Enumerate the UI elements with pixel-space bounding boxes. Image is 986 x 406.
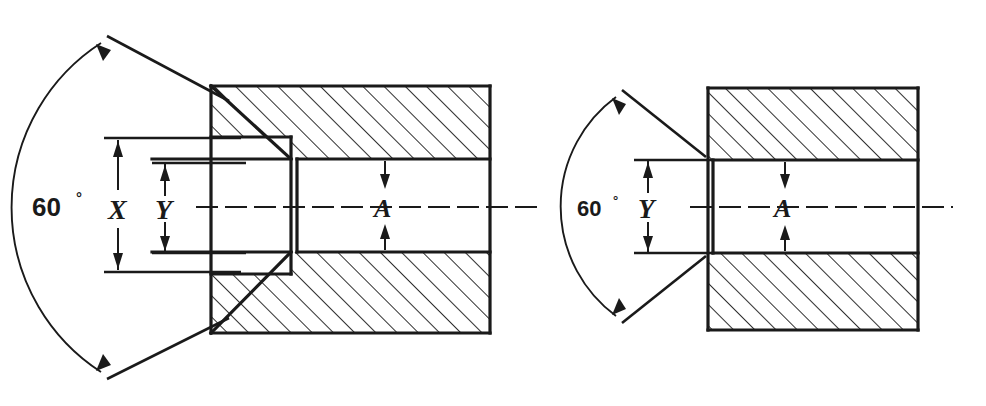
left-dimension-a: A: [372, 161, 391, 250]
left-y-arrow-top: [160, 165, 170, 181]
right-angle-dimension: 60 °: [561, 90, 706, 323]
left-counterbore-bore-edges: [152, 159, 291, 252]
right-dimension-a: A: [772, 162, 791, 251]
left-angle-arrow-top: [96, 44, 111, 61]
left-a-arrow-top: [380, 174, 390, 189]
technical-drawing-canvas: 60 ° X: [0, 0, 986, 406]
right-angle-arrow-top: [612, 98, 626, 115]
left-x-arrow-top: [113, 141, 123, 157]
left-angle-degree-symbol: °: [76, 189, 82, 206]
right-angle-value: 60: [577, 196, 601, 221]
left-dimension-y-label: Y: [155, 194, 175, 225]
left-y-arrow-bottom: [160, 236, 170, 251]
right-a-arrow-top: [780, 174, 790, 189]
left-angle-arrow-bottom: [96, 354, 111, 371]
left-x-arrow-bottom: [113, 253, 123, 269]
left-dimension-a-label: A: [372, 194, 391, 223]
left-a-arrow-bottom: [380, 224, 390, 239]
left-dimension-x-label: X: [107, 194, 128, 225]
right-view: 60 ° Y A: [561, 82, 953, 336]
right-dimension-y-label: Y: [638, 194, 657, 224]
right-dimension-a-label: A: [772, 194, 791, 223]
right-y-arrow-bottom: [643, 236, 653, 251]
right-section-hatch-lower: [702, 247, 924, 336]
right-angle-degree-symbol: °: [613, 193, 618, 208]
left-angle-value: 60: [32, 192, 61, 222]
right-a-arrow-bottom: [780, 225, 790, 240]
right-angle-arrow-bottom: [612, 298, 626, 315]
left-section-hatch-upper: [205, 80, 497, 170]
left-bore-walls: [297, 159, 490, 252]
left-view: 60 ° X: [12, 36, 540, 379]
right-section-hatch-upper: [702, 82, 924, 166]
right-y-arrow-top: [643, 162, 653, 178]
drawing-sheet: 60 ° X: [0, 0, 986, 406]
